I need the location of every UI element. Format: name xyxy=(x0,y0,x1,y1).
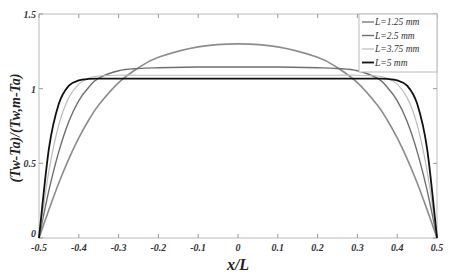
x-tick-label: -0.1 xyxy=(190,242,206,253)
x-tick-label: -0.3 xyxy=(111,242,127,253)
x-tick-label: -0.4 xyxy=(71,242,87,253)
x-tick-label: -0.2 xyxy=(150,242,166,253)
y-tick-label: 0 xyxy=(31,228,36,239)
legend-label: L=5 mm xyxy=(374,58,408,68)
legend-label: L=3.75 mm xyxy=(374,44,420,54)
y-tick-label: 0.5 xyxy=(24,158,37,169)
y-tick-label: 1.5 xyxy=(24,9,37,20)
x-tick-label: 0.5 xyxy=(431,242,444,253)
x-tick-label: 0.2 xyxy=(311,242,324,253)
y-axis-title: (Tw-Ta)/(Tw,m-Ta) xyxy=(8,73,24,182)
x-tick-label: -0.5 xyxy=(31,242,47,253)
legend-label: L=1.25 mm xyxy=(374,17,420,27)
x-tick-label: 0 xyxy=(236,242,241,253)
x-tick-label: 0.4 xyxy=(391,242,404,253)
legend-label: L=2.5 mm xyxy=(374,31,415,41)
y-tick-label: 1 xyxy=(31,84,36,95)
line-chart: -0.5-0.4-0.3-0.2-0.100.10.20.30.40.500.5… xyxy=(0,0,453,276)
x-tick-label: 0.1 xyxy=(272,242,285,253)
legend: L=1.25 mmL=2.5 mmL=3.75 mmL=5 mm xyxy=(359,14,437,72)
x-tick-label: 0.3 xyxy=(351,242,364,253)
x-axis-title: x/L xyxy=(226,256,249,273)
